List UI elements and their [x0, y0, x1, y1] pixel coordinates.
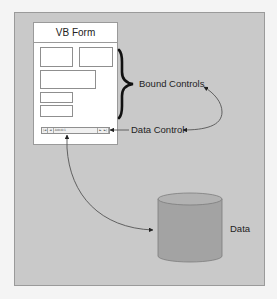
- database-cylinder-icon: [158, 193, 222, 262]
- connectors-layer: [0, 0, 277, 299]
- bound-controls-label: Bound Controls: [139, 78, 204, 89]
- bound-controls-curve-arrow: [183, 87, 222, 130]
- curly-brace-icon: [119, 50, 133, 118]
- data-store-label: Data: [230, 223, 250, 234]
- data-link-curve-arrow: [67, 135, 153, 230]
- data-control-label: Data Control: [131, 124, 184, 135]
